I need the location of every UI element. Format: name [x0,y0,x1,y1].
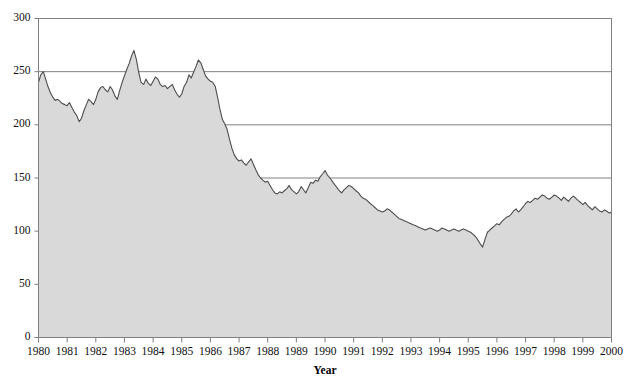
x-tick-label-1992: 1992 [371,345,394,357]
x-tick-label-1987: 1987 [228,345,251,357]
chart-plot-area: 0501001502002503001980198119821983198419… [0,0,631,385]
y-tick-label-100: 100 [13,224,31,236]
x-axis-title: Year [314,364,337,376]
area-chart-svg: 0501001502002503001980198119821983198419… [0,0,631,385]
x-tick-label-1984: 1984 [142,345,165,357]
x-tick-label-1982: 1982 [84,345,107,357]
x-tick-label-1993: 1993 [399,345,422,357]
x-tick-label-1991: 1991 [342,345,365,357]
y-tick-label-0: 0 [25,330,31,342]
x-tick-label-1997: 1997 [514,345,537,357]
x-tick-label-1980: 1980 [27,345,50,357]
x-tick-label-1988: 1988 [256,345,279,357]
x-tick-label-1983: 1983 [113,345,136,357]
y-tick-label-200: 200 [13,117,31,129]
x-tick-label-2000: 2000 [600,345,623,357]
x-tick-label-1986: 1986 [199,345,222,357]
x-tick-label-1998: 1998 [543,345,566,357]
chart-figure: 0501001502002503001980198119821983198419… [0,0,631,385]
x-tick-label-1996: 1996 [485,345,508,357]
x-tick-label-1994: 1994 [428,345,451,357]
y-tick-label-300: 300 [13,11,31,23]
y-tick-label-250: 250 [13,64,31,76]
y-tick-label-150: 150 [13,171,31,183]
x-tick-label-1985: 1985 [170,345,193,357]
x-tick-label-1989: 1989 [285,345,308,357]
series-area-fill [39,50,612,337]
x-tick-label-1981: 1981 [56,345,79,357]
x-tick-label-1995: 1995 [457,345,480,357]
x-tick-label-1990: 1990 [314,345,337,357]
y-tick-label-50: 50 [19,277,31,289]
x-tick-label-1999: 1999 [571,345,594,357]
